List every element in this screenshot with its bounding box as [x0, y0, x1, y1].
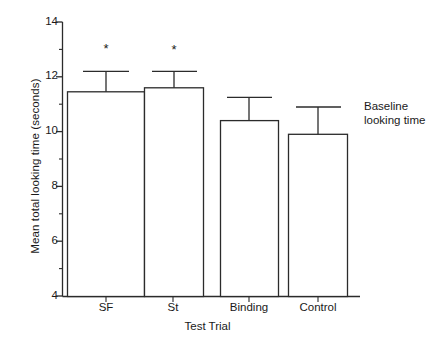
significance-asterisk-sf: *: [100, 42, 112, 55]
error-bar-binding: [227, 97, 272, 120]
plot-area: [0, 0, 438, 349]
error-bar-control: [296, 107, 341, 134]
bar-sf: [68, 92, 145, 297]
bar-st: [145, 88, 204, 297]
baseline-looking-time-note: Baseline looking time: [364, 99, 425, 127]
bar-binding: [221, 121, 279, 297]
x-axis-label: Test Trial: [67, 320, 348, 332]
x-ticks: [106, 297, 318, 303]
significance-asterisk-st: *: [168, 43, 180, 56]
bar-chart-figure: Mean total looking time (seconds) 14 12 …: [0, 0, 438, 349]
error-bar-st: [152, 71, 197, 88]
x-tick-label-sf: SF: [86, 302, 126, 314]
error-bar-sf: [83, 71, 129, 92]
bar-control: [289, 134, 348, 296]
x-tick-label-st: St: [153, 302, 193, 314]
x-tick-label-binding: Binding: [219, 302, 279, 314]
x-tick-label-control: Control: [288, 302, 348, 314]
